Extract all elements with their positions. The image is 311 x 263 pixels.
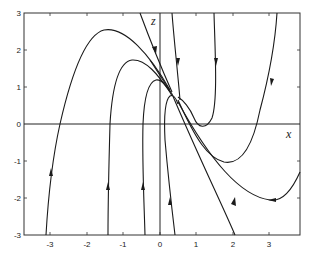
arrow-up-icon [231,197,236,206]
svg-text:-2: -2 [83,240,91,249]
arrow-down-icon [214,58,218,66]
svg-text:0: 0 [158,240,163,249]
y-tick-labels: 3 2 1 0 -1 -2 -3 [14,9,22,240]
svg-text:0: 0 [17,120,22,129]
trajectory-u-small [178,13,216,126]
x-tick-labels: -3 -2 -1 0 1 2 3 [46,240,271,249]
svg-text:-2: -2 [14,194,22,203]
arrow-down-icon [270,78,274,86]
svg-text:-3: -3 [46,240,54,249]
trajectory-manifold [150,60,235,235]
arrow-left-icon [268,198,276,202]
trajectory-arch-middle [108,60,170,235]
svg-text:-1: -1 [119,240,127,249]
svg-text:1: 1 [194,240,199,249]
svg-text:3: 3 [267,240,272,249]
svg-text:3: 3 [17,9,22,18]
arrow-up-icon [141,182,145,190]
trajectory-arch-small [165,95,178,235]
phase-portrait: -3 -2 -1 0 1 2 3 3 2 1 0 -1 -2 -3 z x [0,0,311,263]
svg-text:-1: -1 [14,157,22,166]
svg-text:-3: -3 [14,231,22,240]
svg-text:1: 1 [17,83,22,92]
trajectory-u-lower [178,102,300,200]
svg-text:2: 2 [231,240,236,249]
z-axis-label: z [150,14,156,28]
trajectory-top-left [172,13,180,100]
arrow-up-icon [106,182,110,190]
trajectory-arch-inner [143,80,172,235]
svg-text:2: 2 [17,46,22,55]
trajectory-u-right [178,13,277,162]
x-axis-label: x [285,127,292,141]
arrow-down-icon [152,46,157,54]
